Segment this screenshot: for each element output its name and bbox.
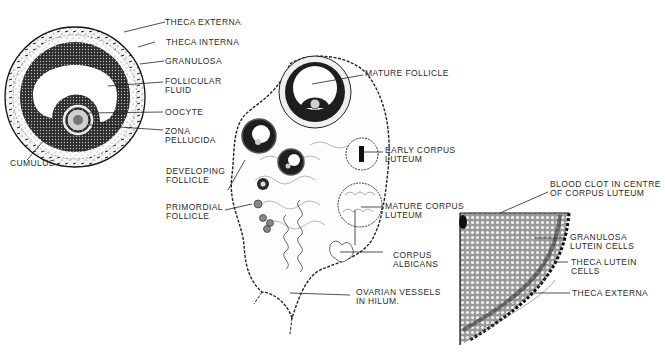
label-early-corpus-luteum: EARLY CORPUSLUTEUM [385,146,456,164]
label-cumulus: CUMULUS [10,159,55,168]
label-developing-follicle: DEVELOPINGFOLLICLE [166,167,225,185]
label-primordial-follicle: PRIMORDIALFOLLICLE [166,203,223,221]
label-corpus-albicans: CORPUSALBICANS [393,251,438,269]
follicle-detail-drawing [5,27,145,167]
label-granulosa: GRANULOSA [165,57,222,66]
label-theca-externa-cl: THECA EXTERNA [572,289,648,298]
label-mature-corpus-luteum: MATURE CORPUSLUTEUM [385,202,464,220]
label-oocyte: OOCYTE [165,108,203,117]
label-ovarian-vessels: OVARIAN VESSELSIN HILUM. [356,288,441,306]
label-follicular-fluid: FOLLICULARFLUID [165,77,221,95]
label-mature-follicle: MATURE FOLLICLE [365,69,449,78]
label-blood-clot: BLOOD CLOT IN CENTREOF CORPUS LUTEUM [550,180,661,198]
label-theca-externa: THECA EXTERNA [165,18,241,27]
ovary-diagram: THECA EXTERNA THECA INTERNA GRANULOSA FO… [0,0,665,358]
label-theca-lutein: THECA LUTEINCELLS [571,258,637,276]
label-theca-interna: THECA INTERNA [166,38,239,47]
corpus-luteum-detail-drawing [459,213,569,345]
label-granulosa-lutein: GRANULOSALUTEIN CELLS [570,233,634,251]
label-zona-pellucida: ZONAPELLUCIDA [165,127,216,145]
